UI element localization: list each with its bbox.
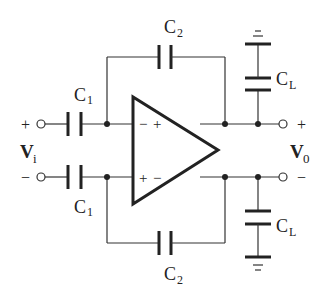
svg-text:C: C [276, 216, 288, 236]
output-terminal-minus [279, 173, 287, 181]
input-plus-sign: + [21, 116, 30, 133]
svg-text:2: 2 [177, 26, 183, 40]
output-minus-sign: − [297, 169, 306, 186]
capacitor-c1-top [68, 112, 81, 136]
opamp-top-output-sign: + [153, 116, 161, 132]
output-voltage-subscript: 0 [303, 151, 310, 166]
svg-text:C: C [276, 69, 288, 89]
ground-icon-bottom [253, 265, 263, 270]
output-voltage-label: V [290, 141, 304, 162]
svg-text:C: C [164, 264, 176, 284]
input-voltage-subscript: i [33, 151, 37, 166]
input-minus-sign: − [21, 169, 30, 186]
label-c2-top: C 2 [164, 17, 183, 40]
label-c2-bottom: C 2 [164, 264, 183, 287]
capacitor-c2-bottom [107, 177, 225, 255]
capacitor-cl-top [245, 44, 271, 124]
ground-icon-top [253, 31, 263, 36]
label-c1-top: C 1 [74, 85, 93, 107]
opamp-triangle [133, 97, 218, 204]
circuit-diagram: + − V i + − V 0 − + + − C 1 C 1 C 2 C 2 … [0, 0, 327, 301]
svg-text:1: 1 [87, 205, 93, 219]
capacitor-c1-bottom [68, 165, 81, 189]
opamp-top-input-sign: − [139, 116, 147, 132]
capacitor-c2-top [107, 45, 225, 124]
label-cl-top: C L [276, 69, 296, 92]
input-voltage-label: V [20, 141, 34, 162]
svg-text:2: 2 [177, 273, 183, 287]
svg-text:C: C [164, 17, 176, 37]
label-c1-bottom: C 1 [74, 197, 93, 219]
capacitor-cl-bottom [245, 177, 271, 257]
svg-text:C: C [74, 197, 86, 217]
svg-text:L: L [289, 78, 296, 92]
svg-text:C: C [74, 85, 86, 105]
output-plus-sign: + [297, 116, 306, 133]
svg-text:1: 1 [87, 93, 93, 107]
input-terminal-minus [37, 173, 45, 181]
input-terminal-plus [37, 120, 45, 128]
opamp-bottom-input-sign: + [139, 170, 147, 186]
opamp-bottom-output-sign: − [153, 170, 161, 186]
svg-text:L: L [289, 225, 296, 239]
output-terminal-plus [279, 120, 287, 128]
label-cl-bottom: C L [276, 216, 296, 239]
